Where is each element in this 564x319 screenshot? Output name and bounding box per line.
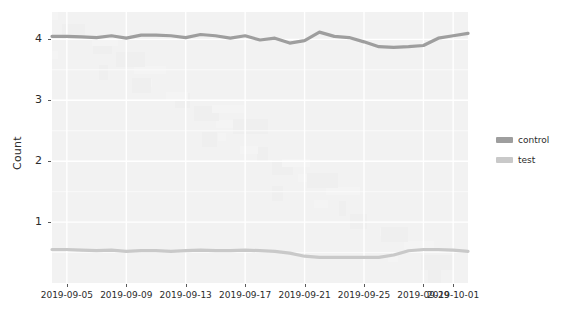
legend-label: control bbox=[518, 135, 549, 145]
texture-patch bbox=[404, 241, 434, 249]
y-tick-mark bbox=[48, 222, 51, 223]
x-tick-mark bbox=[305, 284, 306, 287]
texture-patch bbox=[99, 65, 108, 80]
y-tick-mark bbox=[48, 100, 51, 101]
texture-patch bbox=[212, 105, 244, 113]
legend-item-test[interactable]: test bbox=[496, 151, 560, 168]
x-tick-mark bbox=[126, 284, 127, 287]
texture-patch bbox=[381, 227, 408, 242]
legend: controltest bbox=[496, 131, 560, 171]
x-tick-mark bbox=[364, 284, 365, 287]
texture-patch bbox=[326, 187, 360, 195]
texture-patch bbox=[202, 132, 217, 147]
texture-patch bbox=[307, 173, 338, 188]
x-tick-mark bbox=[423, 284, 424, 287]
x-tick-label: 2019-09-25 bbox=[338, 290, 390, 300]
texture-patch bbox=[428, 268, 441, 283]
x-tick-label: 2019-09-09 bbox=[100, 290, 152, 300]
texture-patch bbox=[166, 92, 188, 100]
y-tick-label: 3 bbox=[18, 94, 42, 105]
texture-patch bbox=[282, 159, 310, 167]
x-tick-label: 2019-09-17 bbox=[219, 290, 271, 300]
texture-patch bbox=[240, 146, 258, 154]
texture-patch bbox=[116, 52, 145, 67]
texture-patch bbox=[233, 119, 268, 134]
texture-patch bbox=[257, 147, 268, 162]
texture-patch bbox=[52, 51, 58, 59]
legend-swatch-control bbox=[496, 137, 513, 143]
x-tick-mark bbox=[245, 284, 246, 287]
y-tick-label: 4 bbox=[18, 33, 42, 44]
texture-patch bbox=[339, 201, 346, 216]
x-tick-mark bbox=[67, 284, 68, 287]
y-tick-label: 2 bbox=[18, 155, 42, 166]
line-chart: Count 1234 2019-09-052019-09-092019-09-1… bbox=[0, 0, 564, 319]
texture-patch bbox=[52, 12, 58, 20]
x-tick-label: 2019-09-13 bbox=[160, 290, 212, 300]
legend-item-control[interactable]: control bbox=[496, 131, 560, 148]
texture-patch bbox=[132, 78, 151, 93]
plot-area bbox=[0, 0, 564, 319]
x-tick-label: 2019-10-01 bbox=[427, 290, 479, 300]
y-axis-title: Count bbox=[6, 118, 28, 188]
x-tick-mark bbox=[186, 284, 187, 287]
legend-swatch-test bbox=[496, 157, 513, 163]
texture-patch bbox=[272, 186, 283, 201]
texture-patch bbox=[421, 255, 454, 270]
y-tick-mark bbox=[48, 161, 51, 162]
x-tick-label: 2019-09-05 bbox=[41, 290, 93, 300]
legend-label: test bbox=[518, 155, 535, 165]
texture-patch bbox=[218, 133, 226, 141]
y-tick-label: 1 bbox=[18, 216, 42, 227]
y-tick-mark bbox=[48, 39, 51, 40]
texture-patch bbox=[314, 200, 328, 208]
x-tick-label: 2019-09-21 bbox=[278, 290, 330, 300]
x-tick-mark bbox=[453, 284, 454, 287]
